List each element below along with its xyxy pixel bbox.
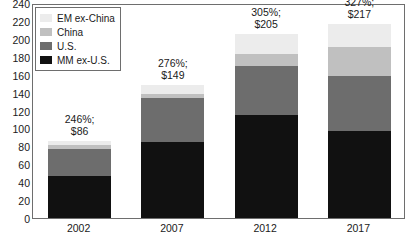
x-axis: 2002200720122017	[32, 222, 405, 242]
stacked-bar[interactable]	[328, 24, 391, 218]
legend-item-label: China	[57, 27, 83, 38]
bar-segment[interactable]	[235, 54, 298, 66]
legend-item[interactable]: MM ex-U.S.	[40, 53, 116, 67]
bar-segment[interactable]	[328, 24, 391, 47]
bar-segment[interactable]	[141, 142, 204, 218]
legend-swatch-icon	[40, 14, 52, 22]
x-axis-tick-label: 2017	[347, 222, 370, 234]
bar-segment[interactable]	[235, 66, 298, 115]
chart-screenshot: 240220200180160140120100806040200 246%;$…	[0, 0, 409, 252]
bar-value-label: 276%;$149	[158, 57, 188, 81]
chart-legend: EM ex-ChinaChinaU.S.MM ex-U.S.	[35, 7, 121, 71]
y-axis-tick-label: 240	[0, 0, 30, 10]
legend-swatch-icon	[40, 42, 52, 50]
x-axis-tick-label: 2007	[160, 222, 183, 234]
y-axis-tick-label: 100	[0, 124, 30, 135]
bar-group: 276%;$149	[141, 3, 204, 218]
bar-label-percent: 327%;	[344, 0, 374, 8]
legend-item[interactable]: EM ex-China	[40, 11, 116, 25]
bar-group: 305%;$205	[235, 3, 298, 218]
legend-item[interactable]: China	[40, 25, 116, 39]
y-axis-tick-label: 220	[0, 16, 30, 27]
bar-segment[interactable]	[48, 149, 111, 176]
legend-item-label: MM ex-U.S.	[57, 55, 110, 66]
bar-label-percent: 246%;	[65, 113, 95, 125]
y-axis-tick-label: 60	[0, 160, 30, 171]
y-axis-tick-label: 200	[0, 34, 30, 45]
bar-label-amount: $149	[158, 69, 188, 81]
y-axis-tick-label: 160	[0, 70, 30, 81]
x-axis-tick-label: 2002	[67, 222, 90, 234]
bar-segment[interactable]	[328, 47, 391, 76]
legend-swatch-icon	[40, 56, 52, 64]
legend-item[interactable]: U.S.	[40, 39, 116, 53]
bar-label-amount: $217	[344, 8, 374, 20]
bar-segment[interactable]	[328, 76, 391, 132]
bar-label-percent: 276%;	[158, 57, 188, 69]
y-axis-tick-label: 180	[0, 52, 30, 63]
bar-segment[interactable]	[48, 176, 111, 218]
bar-value-label: 246%;$86	[65, 113, 95, 137]
y-axis-tick-label: 120	[0, 106, 30, 117]
legend-swatch-icon	[40, 28, 52, 36]
legend-item-label: U.S.	[57, 41, 76, 52]
bar-value-label: 305%;$205	[251, 6, 281, 30]
y-axis-tick-label: 0	[0, 214, 30, 225]
y-axis-tick-label: 140	[0, 88, 30, 99]
legend-item-label: EM ex-China	[57, 13, 115, 24]
bar-segment[interactable]	[141, 85, 204, 94]
bar-segment[interactable]	[235, 115, 298, 218]
y-axis-tick-label: 80	[0, 142, 30, 153]
bar-segment[interactable]	[141, 98, 204, 142]
bar-label-amount: $205	[251, 18, 281, 30]
y-axis: 240220200180160140120100806040200	[0, 0, 30, 252]
bar-value-label: 327%;$217	[344, 0, 374, 20]
stacked-bar[interactable]	[141, 85, 204, 218]
y-axis-tick-label: 20	[0, 196, 30, 207]
x-axis-tick-label: 2012	[253, 222, 276, 234]
y-axis-tick-label: 40	[0, 178, 30, 189]
bar-label-amount: $86	[65, 125, 95, 137]
stacked-bar[interactable]	[48, 141, 111, 218]
bar-segment[interactable]	[328, 131, 391, 218]
bar-group: 327%;$217	[328, 3, 391, 218]
stacked-bar[interactable]	[235, 34, 298, 218]
bar-label-percent: 305%;	[251, 6, 281, 18]
bar-segment[interactable]	[235, 34, 298, 54]
